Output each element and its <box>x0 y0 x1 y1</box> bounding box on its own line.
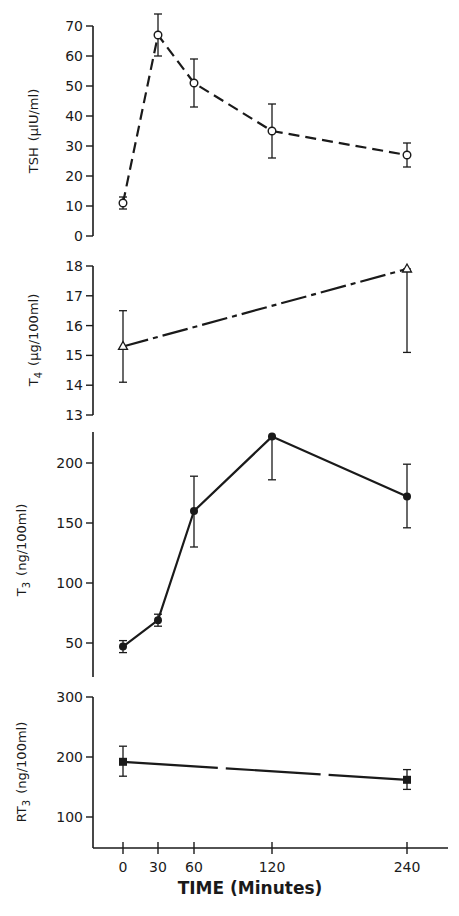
x-tick-label: 0 <box>119 859 128 875</box>
data-line <box>123 437 407 647</box>
y-tick-label: 50 <box>65 78 83 94</box>
x-axis: 03060120240 <box>93 842 448 875</box>
y-tick-label: 0 <box>74 228 83 244</box>
t4-y-label: T4(μg/100ml) <box>26 294 44 387</box>
t3-y-label: T3(ng/100ml) <box>14 504 32 597</box>
panel-t4: 131415161718 <box>65 258 411 423</box>
filled-circle-marker <box>268 433 276 441</box>
filled-circle-marker <box>403 493 411 501</box>
open-circle-marker <box>268 127 276 135</box>
y-tick-label: 20 <box>65 168 83 184</box>
filled-circle-marker <box>190 507 198 515</box>
y-tick-label: 70 <box>65 18 83 34</box>
data-line <box>123 269 407 346</box>
x-tick-label: 60 <box>185 859 203 875</box>
x-tick-label: 240 <box>394 859 421 875</box>
y-tick-label: 150 <box>56 515 83 531</box>
y-tick-label: 50 <box>65 635 83 651</box>
y-tick-label: 300 <box>56 689 83 705</box>
y-tick-label: 13 <box>65 407 83 423</box>
data-line <box>123 762 407 780</box>
open-circle-marker <box>190 79 198 87</box>
svg-text:T4(μg/100ml): T4(μg/100ml) <box>26 294 44 387</box>
x-tick-label: 120 <box>259 859 286 875</box>
y-tick-label: 15 <box>65 347 83 363</box>
y-tick-label: 18 <box>65 258 83 274</box>
filled-square-marker <box>119 758 127 766</box>
data-line <box>123 35 407 203</box>
panel-t3: 50100150200 <box>56 432 411 677</box>
y-tick-label: 30 <box>65 138 83 154</box>
open-circle-marker <box>403 151 411 159</box>
open-circle-marker <box>154 31 162 39</box>
rt3-y-label: RT3(ng/100ml) <box>14 722 32 823</box>
tsh-y-label: TSH(μIU/ml) <box>26 89 41 174</box>
y-tick-label: 60 <box>65 48 83 64</box>
filled-square-marker <box>403 776 411 784</box>
svg-text:T3(ng/100ml): T3(ng/100ml) <box>14 504 32 597</box>
panel-tsh: 010203040506070 <box>65 14 411 244</box>
svg-text:RT3(ng/100ml): RT3(ng/100ml) <box>14 722 32 823</box>
y-tick-label: 200 <box>56 749 83 765</box>
y-tick-label: 40 <box>65 108 83 124</box>
y-tick-label: 10 <box>65 198 83 214</box>
x-tick-label: 30 <box>149 859 167 875</box>
y-tick-label: 16 <box>65 318 83 334</box>
y-tick-label: 100 <box>56 575 83 591</box>
figure: 0102030405060701314151617185010015020010… <box>0 0 459 916</box>
y-tick-label: 17 <box>65 288 83 304</box>
open-triangle-marker <box>403 264 412 272</box>
filled-circle-marker <box>119 643 127 651</box>
panel-rt3: 100200300 <box>56 689 411 848</box>
x-axis-title: TIME (Minutes) <box>178 878 323 898</box>
y-tick-label: 14 <box>65 377 83 393</box>
y-tick-label: 100 <box>56 809 83 825</box>
filled-circle-marker <box>154 616 162 624</box>
svg-text:TSH(μIU/ml): TSH(μIU/ml) <box>26 89 41 174</box>
open-circle-marker <box>119 199 127 207</box>
y-tick-label: 200 <box>56 455 83 471</box>
